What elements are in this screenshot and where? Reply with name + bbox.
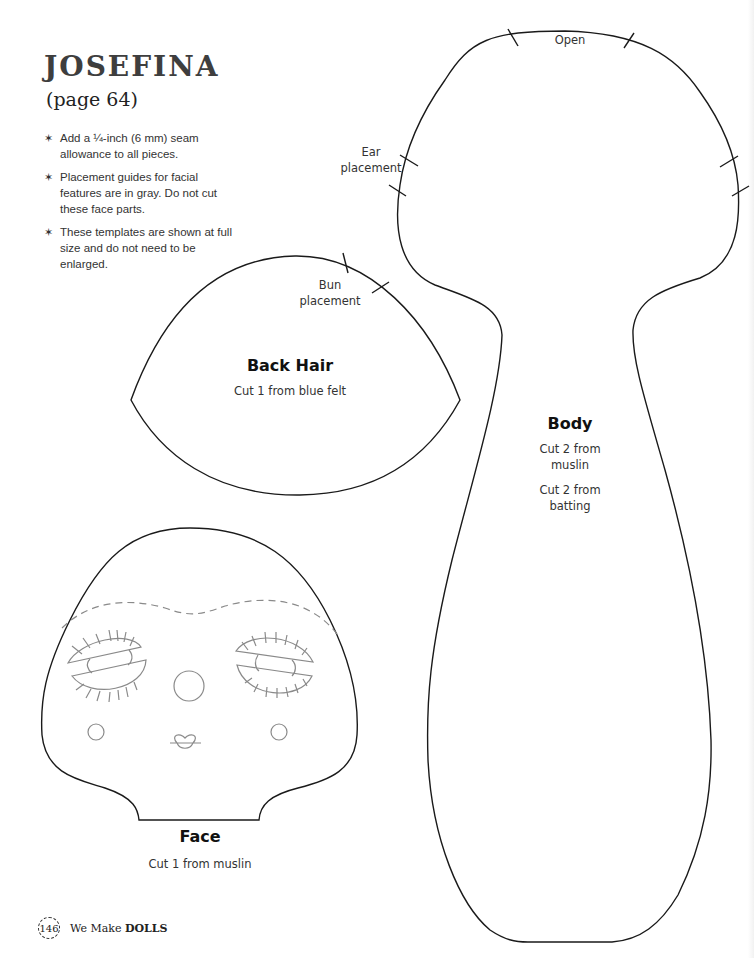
face-title: Face [110,827,290,846]
page-number-badge: 146 [38,917,60,939]
bun-placement-label: Bun placement [295,277,365,309]
body-title: Body [520,414,620,433]
left-eye-guide [68,630,146,702]
nose-guide [174,671,204,701]
left-cheek-guide [88,724,104,740]
face-label: Face Cut 1 from muslin [110,827,290,872]
back-hair-label: Back Hair Cut 1 from blue felt [200,356,380,399]
back-hair-title: Back Hair [200,356,380,375]
body-label: Body Cut 2 from muslin Cut 2 from battin… [520,414,620,514]
ear-placement-label: Ear placement [336,144,406,176]
right-cheek-guide [271,724,287,740]
page-footer: 146 We Make DOLLS [38,917,167,939]
hairline-guide [62,600,340,638]
back-hair-instructions: Cut 1 from blue felt [200,383,380,399]
mouth-guide [170,735,201,748]
face-feature-guides [62,600,340,748]
right-eye-guide [236,632,313,698]
open-marker-label: Open [550,32,590,48]
book-title: We Make DOLLS [70,922,167,935]
face-instructions: Cut 1 from muslin [110,856,290,872]
face-template-outline [42,528,358,820]
